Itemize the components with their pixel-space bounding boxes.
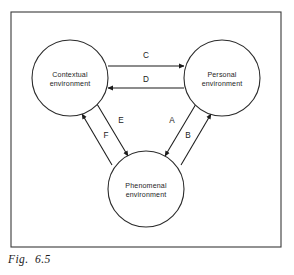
edge-label-b: B (185, 131, 191, 140)
edge-label-c: C (143, 51, 149, 60)
edge-label-f: F (103, 131, 108, 140)
edge-label-a: A (169, 116, 175, 125)
node-label-contextual: Contextualenvironment (50, 71, 91, 88)
figure-caption: Fig. 6.5 (8, 253, 51, 265)
edge-label-d: D (143, 75, 149, 84)
environment-relationship-diagram: CDEFAB ContextualenvironmentPersonalenvi… (0, 0, 294, 275)
node-label-phenomenal: Phenomenalenvironment (125, 182, 167, 199)
figure-container: CDEFAB ContextualenvironmentPersonalenvi… (0, 0, 294, 275)
edge-label-e: E (118, 116, 124, 125)
node-label-personal: Personalenvironment (202, 71, 243, 88)
